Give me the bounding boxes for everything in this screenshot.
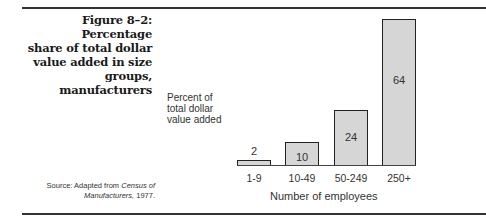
ylabel-line: Percent of xyxy=(167,92,257,103)
title-line: share of total dollar xyxy=(10,41,152,55)
title-line: value added in size xyxy=(10,55,152,69)
figure-title: Figure 8–2: Percentage share of total do… xyxy=(10,13,152,97)
ylabel-line: total dollar xyxy=(167,103,257,114)
x-tick-label: 250+ xyxy=(374,172,424,184)
x-axis-label: Number of employees xyxy=(270,190,378,202)
y-axis-label: Percent of total dollar value added xyxy=(167,92,257,125)
x-axis-baseline xyxy=(237,165,416,166)
x-tick-label: 10-49 xyxy=(277,172,327,184)
source-title-1: Census of xyxy=(121,181,155,190)
title-line: groups, manufacturers xyxy=(10,69,152,97)
bar-value-label: 10 xyxy=(285,151,319,163)
source-year: 1977. xyxy=(134,191,155,200)
bar-value-label: 24 xyxy=(334,131,368,143)
ylabel-line: value added xyxy=(167,114,257,125)
top-rule xyxy=(22,7,486,9)
x-tick-label: 50-249 xyxy=(326,172,376,184)
source-prefix: Source: Adapted from xyxy=(47,181,122,190)
source-title-2: Manufacturers, xyxy=(84,191,134,200)
bar-250+ xyxy=(382,19,416,166)
source-note: Source: Adapted from Census of Manufactu… xyxy=(10,181,155,201)
bottom-rule xyxy=(22,213,486,215)
title-line: Figure 8–2: Percentage xyxy=(10,13,152,41)
bar-value-label: 64 xyxy=(382,74,416,86)
x-tick-label: 1-9 xyxy=(229,172,279,184)
bar-value-label: 2 xyxy=(237,145,271,157)
